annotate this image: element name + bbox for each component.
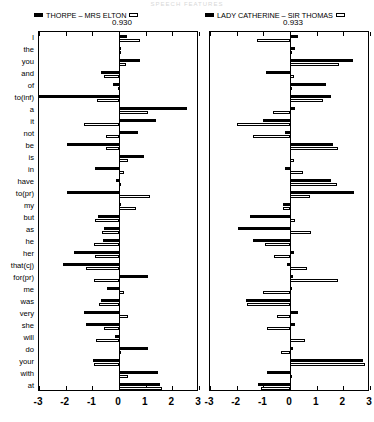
bar-solid — [246, 299, 290, 302]
bar-open — [119, 39, 140, 42]
bar-solid — [290, 323, 295, 326]
bar-solid — [115, 335, 119, 338]
category-label: is — [0, 153, 34, 162]
axis-tick — [199, 32, 200, 36]
x-axis-tick-label: 2 — [161, 396, 181, 407]
bar-open — [290, 63, 339, 66]
category-label: do — [0, 345, 34, 354]
bar-open — [290, 195, 310, 198]
x-axis-tick-label: 3 — [359, 396, 374, 407]
category-label: of — [0, 81, 34, 90]
bar-solid — [290, 287, 292, 290]
bar-open — [84, 123, 119, 126]
category-label: that(cj) — [0, 261, 34, 270]
bar-open — [253, 135, 290, 138]
bar-open — [267, 327, 290, 330]
open-square-marker-icon — [129, 13, 138, 17]
category-label: a — [0, 105, 34, 114]
bar-solid — [119, 59, 140, 62]
bar-solid — [290, 179, 331, 182]
bar-solid — [285, 167, 290, 170]
x-axis-tick-label: 1 — [135, 396, 155, 407]
bar-open — [265, 243, 290, 246]
x-axis-labels-right: -3-2-10123 — [209, 396, 369, 410]
bar-solid — [287, 263, 290, 266]
x-axis-tick-label: 0 — [108, 396, 128, 407]
bar-solid — [283, 203, 290, 206]
bar-open — [99, 303, 119, 306]
bar-row — [39, 380, 197, 393]
bar-rows — [39, 32, 197, 390]
bar-solid — [84, 311, 119, 314]
category-label: she — [0, 321, 34, 330]
bar-solid — [74, 251, 119, 254]
category-label: I — [0, 33, 34, 42]
bar-open — [283, 207, 290, 210]
bar-open — [290, 183, 337, 186]
bar-open — [119, 51, 121, 54]
bar-solid — [98, 215, 119, 218]
bar-open — [119, 207, 136, 210]
category-label: my — [0, 201, 34, 210]
figure-title: SPEECH FEATURES — [0, 1, 374, 7]
bar-open — [97, 99, 119, 102]
bar-open — [119, 387, 162, 390]
bar-solid — [119, 107, 187, 110]
category-label: to(pr) — [0, 189, 34, 198]
axis-tick — [199, 386, 200, 390]
bar-open — [277, 315, 290, 318]
bar-open — [290, 171, 303, 174]
bar-solid — [38, 95, 119, 98]
bar-open — [290, 87, 292, 90]
bar-solid — [290, 251, 294, 254]
bar-solid — [290, 191, 354, 194]
bar-solid — [93, 359, 119, 362]
bar-solid — [290, 311, 298, 314]
bar-open — [273, 111, 290, 114]
bar-open — [106, 135, 119, 138]
x-axis-tick-label: -2 — [226, 396, 246, 407]
bar-rows — [210, 32, 368, 390]
bar-open — [95, 255, 119, 258]
bar-solid — [290, 95, 331, 98]
bar-open — [96, 339, 119, 342]
bar-open — [263, 291, 290, 294]
bar-solid — [119, 47, 121, 50]
bar-open — [290, 99, 323, 102]
category-axis-labels: Itheyouandofto(inf)aitnotbeisinhaveto(pr… — [0, 31, 36, 391]
score-left: 0.930 — [92, 18, 152, 27]
bar-open — [119, 171, 124, 174]
category-label: and — [0, 69, 34, 78]
bar-solid — [116, 179, 119, 182]
bar-solid — [107, 287, 119, 290]
bar-solid — [119, 119, 156, 122]
bar-solid — [119, 347, 148, 350]
bar-open — [94, 363, 119, 366]
category-label: the — [0, 45, 34, 54]
bar-open — [119, 351, 121, 354]
solid-square-marker-icon — [205, 13, 214, 17]
bar-open — [118, 87, 120, 90]
bar-open — [119, 111, 148, 114]
bar-solid — [103, 239, 119, 242]
bar-open — [119, 195, 150, 198]
axis-tick — [370, 32, 371, 36]
bar-solid — [290, 155, 291, 158]
bar-solid — [263, 119, 290, 122]
x-axis-tick-label: 0 — [279, 396, 299, 407]
category-label: he — [0, 237, 34, 246]
bar-solid — [290, 83, 326, 86]
bar-solid — [253, 239, 290, 242]
x-axis-labels-left: -3-2-10123 — [38, 396, 198, 410]
bar-solid — [67, 143, 119, 146]
bar-open — [290, 159, 294, 162]
bar-open — [290, 375, 292, 378]
bar-solid — [290, 59, 353, 62]
axis-tick — [370, 386, 371, 390]
score-right: 0.933 — [263, 18, 323, 27]
category-label: will — [0, 333, 34, 342]
category-label: have — [0, 177, 34, 186]
bar-open — [119, 159, 128, 162]
bar-open — [86, 267, 119, 270]
bar-open — [290, 267, 307, 270]
